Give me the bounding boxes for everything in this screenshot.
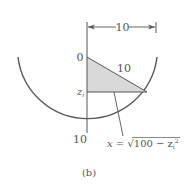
axis-top-label: 0 (77, 51, 84, 64)
hypotenuse-label: 10 (117, 62, 131, 75)
axis-z-label: zi (76, 86, 84, 98)
figure-caption: (b) (82, 167, 96, 178)
formula: x = √100 − zi2 (107, 137, 179, 150)
leader-line (114, 92, 123, 136)
axis-bottom-label: 10 (73, 133, 87, 146)
hemisphere-cross-section-diagram: 10 0 10 zi 10 x = √100 − zi2 (b) (0, 0, 190, 187)
dimension-label: 10 (116, 21, 130, 34)
